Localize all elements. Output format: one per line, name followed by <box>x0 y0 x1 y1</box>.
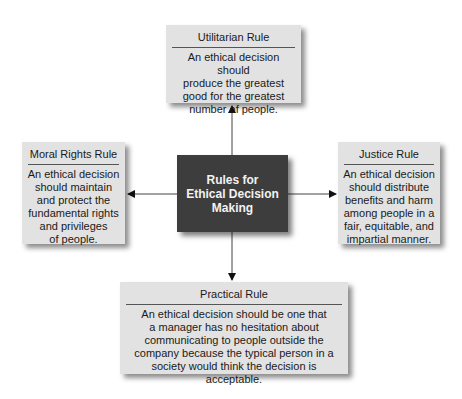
body-line: of people. <box>26 233 121 246</box>
body-line: a manager has no hesitation about <box>124 321 344 334</box>
justice-rule-box: Justice Rule An ethical decision should … <box>338 142 440 244</box>
moral-rights-rule-box: Moral Rights Rule An ethical decision sh… <box>22 142 125 244</box>
body-line: fair, equitable, and <box>342 220 436 233</box>
box-body: An ethical decision should maintain and … <box>22 165 125 246</box>
body-line: benefits and harm <box>342 194 436 207</box>
center-title-line: Making <box>186 201 279 215</box>
practical-rule-box: Practical Rule An ethical decision shoul… <box>120 282 348 374</box>
body-line: impartial manner. <box>342 233 436 246</box>
box-body: An ethical decision should be one that a… <box>120 305 348 386</box>
body-line: fundamental rights <box>26 207 121 220</box>
box-title: Justice Rule <box>338 142 440 164</box>
body-line: should maintain <box>26 181 121 194</box>
body-line: company because the typical person in a <box>124 347 344 360</box>
body-line: An ethical decision should be one that <box>124 308 344 321</box>
body-line: produce the greatest <box>170 77 297 90</box>
center-title-line: Ethical Decision <box>186 187 279 201</box>
body-line: and privileges <box>26 220 121 233</box>
body-line: should distribute <box>342 181 436 194</box>
box-title: Moral Rights Rule <box>22 142 125 164</box>
utilitarian-rule-box: Utilitarian Rule An ethical decision sho… <box>166 25 301 103</box>
center-title-line: Rules for <box>186 173 279 187</box>
body-line: An ethical decision <box>342 168 436 181</box>
body-line: An ethical decision should <box>170 51 297 77</box>
box-title: Practical Rule <box>120 282 348 304</box>
center-box-rules-for-ethical-decision-making: Rules for Ethical Decision Making <box>177 155 288 232</box>
box-body: An ethical decision should distribute be… <box>338 165 440 246</box>
box-title: Utilitarian Rule <box>166 25 301 47</box>
body-line: communicating to people outside the <box>124 334 344 347</box>
body-line: society would think the decision is acce… <box>124 360 344 386</box>
body-line: number of people. <box>170 103 297 116</box>
box-body: An ethical decision should produce the g… <box>166 48 301 116</box>
body-line: among people in a <box>342 207 436 220</box>
body-line: An ethical decision <box>26 168 121 181</box>
body-line: and protect the <box>26 194 121 207</box>
body-line: good for the greatest <box>170 90 297 103</box>
